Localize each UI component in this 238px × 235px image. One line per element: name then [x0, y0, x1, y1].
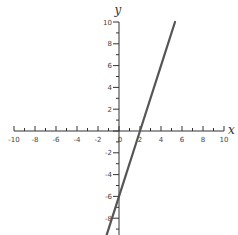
- x-tick-label: 8: [201, 136, 205, 144]
- x-tick-label: 6: [180, 136, 185, 144]
- x-tick-label: -8: [32, 136, 39, 144]
- x-tick-label: -6: [53, 136, 61, 144]
- y-tick-label: -2: [105, 149, 112, 157]
- x-tick-label: 0: [118, 136, 122, 144]
- x-axis: -10-8-6-4-20246810x: [8, 123, 235, 144]
- y-tick-label: 4: [108, 84, 113, 92]
- y-tick-label: 6: [108, 62, 113, 70]
- data-line: [106, 22, 175, 235]
- y-tick-label: 8: [108, 40, 112, 48]
- y-axis-label: y: [114, 3, 122, 17]
- y-tick-label: 10: [103, 19, 112, 27]
- y-tick-label: -6: [105, 193, 113, 201]
- x-tick-label: -10: [8, 136, 19, 144]
- x-tick-label: -4: [74, 136, 82, 144]
- x-axis-label: x: [228, 123, 235, 137]
- y-tick-label: 2: [108, 106, 112, 114]
- x-tick-label: 10: [220, 136, 229, 144]
- y-tick-label: -4: [105, 171, 113, 179]
- line-chart: -10-8-6-4-20246810x-8-6-4-2246810y: [0, 0, 238, 235]
- x-tick-label: 4: [159, 136, 164, 144]
- x-tick-label: -2: [95, 136, 102, 144]
